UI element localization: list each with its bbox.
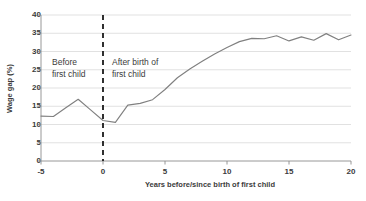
x-axis-title: Years before/since birth of first child: [60, 180, 360, 189]
annotation-after-birth-of-first-child: After birth of first child: [112, 57, 158, 80]
data-line-wage-gap: [41, 34, 351, 123]
annotation-after-line2: first child: [112, 69, 158, 81]
annotation-before-line2: first child: [52, 69, 86, 81]
annotation-before-first-child: Before first child: [52, 57, 86, 80]
annotation-after-line1: After birth of: [112, 57, 158, 69]
annotation-before-line1: Before: [52, 57, 86, 69]
wage-gap-line-chart: Wage gap (%) 0510152025303540 -505101520…: [0, 0, 366, 201]
plot-area: [0, 0, 366, 201]
